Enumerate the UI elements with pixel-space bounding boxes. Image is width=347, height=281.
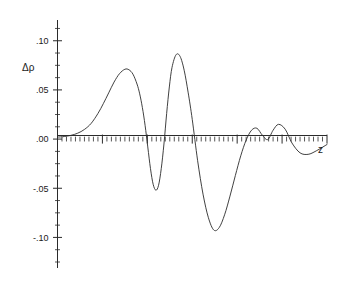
x-axis-label: z (318, 144, 323, 155)
y-axis-tick-label: .00 (36, 134, 49, 144)
y-axis-tick-label: .05 (36, 85, 49, 95)
y-axis-label: Δρ (22, 62, 35, 73)
y-axis-tick-label: -.05 (33, 184, 49, 194)
chart-figure: .10.05.00-.05-.10 Δρ z (0, 0, 347, 281)
chart-background (0, 0, 347, 281)
y-axis-tick-label: -.10 (33, 233, 49, 243)
y-axis-tick-label: .10 (36, 36, 49, 46)
